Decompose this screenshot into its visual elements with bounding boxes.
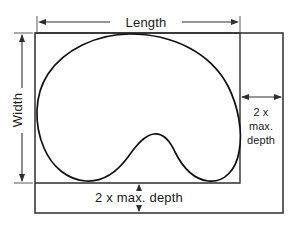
depth-right-arrow-left-icon	[241, 94, 249, 100]
depth-bottom-arrow-down-icon	[136, 205, 142, 212]
length-arrow-left-icon	[38, 19, 46, 25]
depth-right-label-line2: max.	[249, 120, 273, 132]
diagram-container: Length Width 2 x max. depth 2 x max. dep…	[0, 0, 294, 239]
fish-dimension-diagram: Length Width 2 x max. depth 2 x max. dep…	[0, 0, 294, 239]
depth-right-label-line3: depth	[247, 134, 275, 146]
kidney-bean-outline-icon	[37, 34, 240, 181]
depth-right-label-line1: 2 x	[254, 106, 269, 118]
depth-bottom-label: 2 x max. depth	[95, 190, 183, 205]
length-label: Length	[126, 15, 167, 30]
width-label: Width	[10, 93, 25, 127]
width-arrow-top-icon	[19, 34, 25, 42]
length-arrow-right-icon	[231, 19, 239, 25]
width-arrow-bottom-icon	[19, 174, 25, 182]
depth-right-arrow-right-icon	[274, 94, 282, 100]
